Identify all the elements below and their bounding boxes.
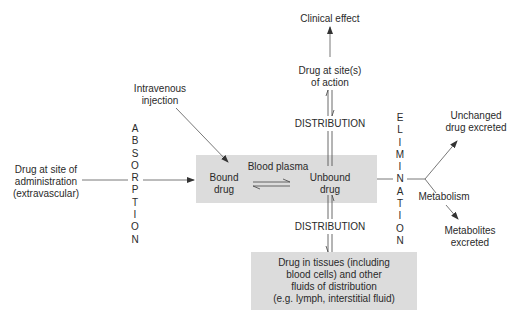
unchanged-drug-line2: drug excreted bbox=[440, 122, 512, 134]
unchanged-drug-line1: Unchanged bbox=[440, 110, 512, 122]
tissues-line4: (e.g. lymph, interstitial fluid) bbox=[251, 293, 417, 305]
absorption-label: A B S O R P T I O N bbox=[128, 123, 142, 246]
drug-admin-line3: (extravascular) bbox=[10, 188, 82, 200]
unbound-drug-line2: drug bbox=[305, 184, 355, 196]
drug-admin-line2: administration bbox=[10, 176, 82, 188]
tissues-line2: blood cells) and other bbox=[251, 269, 417, 281]
metabolites-line1: Metabolites bbox=[440, 225, 500, 237]
iv-injection-line2: injection bbox=[128, 95, 192, 107]
drug-admin-line1: Drug at site of bbox=[10, 164, 82, 176]
drug-site-action-line1: Drug at site(s) bbox=[288, 65, 372, 77]
tissues-line3: fluids of distribution bbox=[251, 281, 417, 293]
metabolites-line2: excreted bbox=[440, 237, 500, 249]
distribution-lower-label: DISTRIBUTION bbox=[290, 221, 370, 233]
metabolism-label: Metabolism bbox=[414, 191, 474, 203]
elimination-label: E L I M I N A T I O N bbox=[393, 112, 407, 247]
unbound-drug-line1: Unbound bbox=[305, 172, 355, 184]
tissues-line1: Drug in tissues (including bbox=[251, 257, 417, 269]
bound-drug-line2: drug bbox=[204, 184, 244, 196]
bound-drug-line1: Bound bbox=[204, 172, 244, 184]
drug-site-action-line2: of action bbox=[288, 77, 372, 89]
distribution-upper-label: DISTRIBUTION bbox=[290, 118, 370, 130]
blood-plasma-label: Blood plasma bbox=[243, 161, 313, 173]
clinical-effect-label: Clinical effect bbox=[290, 13, 370, 25]
iv-injection-line1: Intravenous bbox=[128, 83, 192, 95]
